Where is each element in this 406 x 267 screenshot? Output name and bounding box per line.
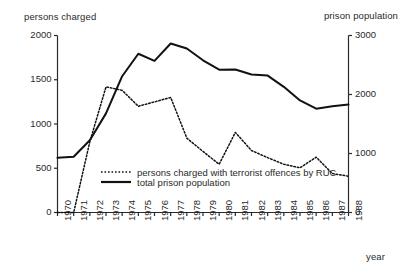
plot-area [0,0,406,267]
legend-markers [101,172,131,182]
legend-label-prison-population: total prison population [137,177,230,188]
chart-container: persons charged prison population year 0… [0,0,406,267]
series-line [58,43,349,157]
series-line [58,87,349,213]
